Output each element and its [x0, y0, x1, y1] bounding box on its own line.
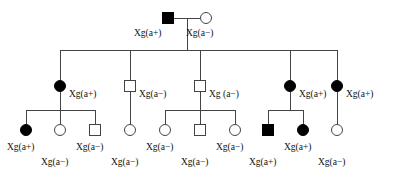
genotype-label-III-2: Xg(a−)	[41, 158, 69, 168]
pedigree-symbols	[21, 13, 343, 136]
genotype-label-II-5: Xg(a+)	[346, 90, 374, 100]
genotype-label-II-3: Xg (a−)	[209, 90, 239, 100]
pedigree-symbol-square-filled-I-1[interactable]	[163, 13, 174, 24]
pedigree-symbol-circle-filled-III-1[interactable]	[21, 125, 32, 136]
pedigree-symbol-square-open-II-2[interactable]	[125, 81, 136, 92]
connector-lines	[26, 18, 337, 124]
genotype-label-III-7: Xg(a−)	[216, 143, 244, 153]
pedigree-chart: Xg(a+)Xg(a−)Xg(a+)Xg(a−)Xg (a−)Xg(a+)Xg(…	[0, 0, 394, 179]
pedigree-symbol-circle-open-III-7[interactable]	[230, 125, 241, 136]
genotype-label-II-1: Xg(a+)	[69, 90, 97, 100]
pedigree-symbol-circle-filled-II-1[interactable]	[55, 81, 66, 92]
genotype-label-III-10: Xg(a−)	[318, 158, 346, 168]
genotype-label-III-8: Xg(a+)	[249, 158, 277, 168]
genotype-label-II-2: Xg(a−)	[139, 90, 167, 100]
genotype-label-III-9: Xg(a+)	[284, 143, 312, 153]
genotype-label-III-4: Xg(a−)	[111, 158, 139, 168]
genotype-label-II-4: Xg(a+)	[299, 90, 327, 100]
pedigree-symbol-square-open-II-3[interactable]	[195, 81, 206, 92]
pedigree-symbol-circle-filled-II-4[interactable]	[285, 81, 296, 92]
pedigree-symbol-circle-open-III-10[interactable]	[332, 125, 343, 136]
genotype-label-III-1: Xg(a+)	[7, 143, 35, 153]
pedigree-symbol-square-filled-III-8[interactable]	[263, 125, 274, 136]
pedigree-symbol-circle-open-III-4[interactable]	[125, 125, 136, 136]
genotype-label-I-1: Xg(a+)	[134, 29, 162, 39]
pedigree-symbol-square-open-III-6[interactable]	[195, 125, 206, 136]
pedigree-symbol-square-open-III-3[interactable]	[90, 125, 101, 136]
genotype-label-III-5: Xg(a−)	[146, 143, 174, 153]
pedigree-symbol-circle-open-I-2[interactable]	[201, 13, 212, 24]
pedigree-diagram-canvas	[0, 0, 394, 179]
pedigree-symbol-circle-open-III-5[interactable]	[160, 125, 171, 136]
pedigree-symbol-circle-filled-III-9[interactable]	[298, 125, 309, 136]
genotype-label-I-2: Xg(a−)	[186, 29, 214, 39]
pedigree-symbol-circle-open-III-2[interactable]	[55, 125, 66, 136]
genotype-label-III-6: Xg(a−)	[181, 158, 209, 168]
genotype-label-III-3: Xg(a−)	[76, 143, 104, 153]
pedigree-symbol-circle-filled-II-5[interactable]	[332, 81, 343, 92]
